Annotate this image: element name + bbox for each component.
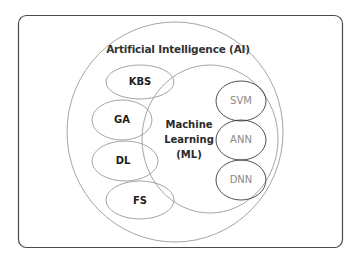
fs-label: FS — [133, 195, 147, 206]
ga-label: GA — [114, 114, 130, 125]
ai-circle — [67, 22, 283, 242]
dl-label: DL — [116, 155, 131, 166]
ai-ml-diagram: Artificial Intelligence (AI) Machine Lea… — [0, 0, 359, 259]
kbs-label: KBS — [129, 76, 152, 87]
svm-label: SVM — [230, 95, 252, 106]
ml-label-line-2: Learning — [164, 134, 214, 145]
ai-label: Artificial Intelligence (AI) — [106, 43, 250, 55]
ml-label-line-3: (ML) — [176, 149, 201, 160]
ann-label: ANN — [230, 134, 252, 145]
ml-label-line-1: Machine — [165, 119, 212, 130]
dnn-label: DNN — [230, 174, 253, 185]
